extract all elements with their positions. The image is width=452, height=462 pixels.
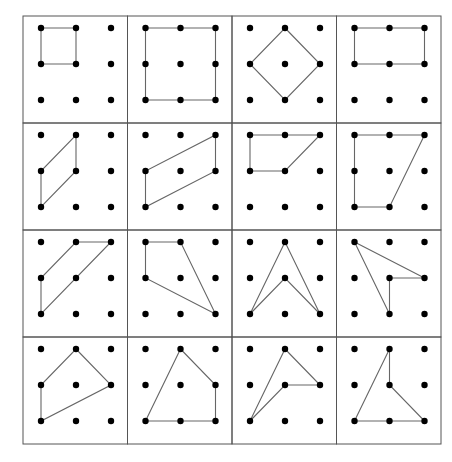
lattice-dot xyxy=(142,311,148,317)
lattice-dot xyxy=(282,97,288,103)
lattice-dot xyxy=(386,382,392,388)
polygon-trapezoid xyxy=(250,135,320,171)
lattice-dot xyxy=(421,168,427,174)
lattice-dot xyxy=(38,132,44,138)
lattice-dot xyxy=(142,168,148,174)
lattice-dot xyxy=(142,132,148,138)
lattice-dot xyxy=(108,346,114,352)
panel-7 xyxy=(232,123,337,230)
lattice-dot xyxy=(421,382,427,388)
panel-border xyxy=(232,337,337,444)
lattice-dot xyxy=(421,61,427,67)
panel-12 xyxy=(337,230,442,337)
lattice-dot xyxy=(108,97,114,103)
lattice-dot xyxy=(212,25,218,31)
lattice-dot xyxy=(108,239,114,245)
panel-border xyxy=(232,230,337,337)
panel-14 xyxy=(128,337,233,444)
lattice-dot xyxy=(73,418,79,424)
lattice-dot xyxy=(177,25,183,31)
lattice-dot xyxy=(212,382,218,388)
panel-border xyxy=(337,337,442,444)
lattice-dot xyxy=(177,275,183,281)
lattice-dot xyxy=(386,418,392,424)
lattice-dot xyxy=(317,97,323,103)
lattice-dot xyxy=(421,311,427,317)
lattice-dot xyxy=(421,25,427,31)
lattice-dot xyxy=(351,418,357,424)
lattice-dot xyxy=(386,239,392,245)
lattice-dot xyxy=(142,204,148,210)
lattice-dot xyxy=(73,204,79,210)
lattice-dot xyxy=(38,418,44,424)
lattice-dot xyxy=(421,204,427,210)
lattice-dot xyxy=(247,382,253,388)
lattice-dot xyxy=(351,346,357,352)
lattice-dot xyxy=(212,275,218,281)
lattice-dot xyxy=(351,275,357,281)
lattice-dot xyxy=(212,97,218,103)
lattice-dot xyxy=(38,204,44,210)
lattice-dot xyxy=(351,25,357,31)
lattice-dot xyxy=(212,418,218,424)
lattice-dot xyxy=(177,61,183,67)
lattice-dot xyxy=(73,382,79,388)
lattice-dot xyxy=(38,275,44,281)
lattice-dot xyxy=(108,168,114,174)
lattice-dot xyxy=(108,418,114,424)
panel-border xyxy=(23,16,128,123)
lattice-dot xyxy=(247,311,253,317)
lattice-dot xyxy=(38,382,44,388)
lattice-dot xyxy=(282,168,288,174)
panel-4 xyxy=(337,16,442,123)
lattice-dot xyxy=(351,311,357,317)
panel-border xyxy=(128,230,233,337)
lattice-dot xyxy=(317,61,323,67)
lattice-dot xyxy=(351,132,357,138)
lattice-dot xyxy=(351,204,357,210)
panel-5 xyxy=(23,123,128,230)
lattice-dot xyxy=(386,311,392,317)
geoboard-figure xyxy=(0,0,452,462)
lattice-dot xyxy=(386,275,392,281)
panel-border xyxy=(23,123,128,230)
lattice-dot xyxy=(386,168,392,174)
lattice-dot xyxy=(212,61,218,67)
lattice-dot xyxy=(282,25,288,31)
panel-border xyxy=(337,230,442,337)
lattice-dot xyxy=(142,275,148,281)
lattice-dot xyxy=(38,168,44,174)
panel-3 xyxy=(232,16,337,123)
lattice-dot xyxy=(73,346,79,352)
lattice-dot xyxy=(282,239,288,245)
panel-border xyxy=(337,16,442,123)
lattice-dot xyxy=(386,132,392,138)
lattice-dot xyxy=(212,168,218,174)
lattice-dot xyxy=(142,239,148,245)
lattice-dot xyxy=(351,61,357,67)
lattice-dot xyxy=(421,97,427,103)
lattice-dot xyxy=(247,346,253,352)
lattice-dot xyxy=(142,61,148,67)
lattice-dot xyxy=(317,275,323,281)
lattice-dot xyxy=(317,25,323,31)
lattice-dot xyxy=(108,61,114,67)
lattice-dot xyxy=(177,382,183,388)
lattice-dot xyxy=(421,239,427,245)
lattice-dot xyxy=(177,97,183,103)
lattice-dot xyxy=(351,168,357,174)
lattice-dot xyxy=(317,168,323,174)
lattice-dot xyxy=(177,239,183,245)
panel-border xyxy=(232,16,337,123)
panel-2 xyxy=(128,16,233,123)
lattice-dot xyxy=(38,239,44,245)
lattice-dot xyxy=(317,239,323,245)
lattice-dot xyxy=(142,346,148,352)
lattice-dot xyxy=(73,311,79,317)
lattice-dot xyxy=(247,239,253,245)
panel-border xyxy=(128,337,233,444)
lattice-dot xyxy=(212,346,218,352)
panel-16 xyxy=(337,337,442,444)
lattice-dot xyxy=(108,204,114,210)
lattice-dot xyxy=(317,132,323,138)
